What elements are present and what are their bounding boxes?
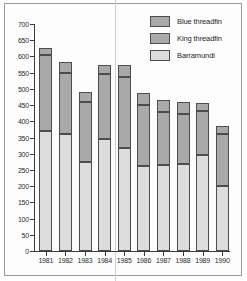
y-axis-tick-mark	[30, 121, 34, 122]
bar-segment-king-threadfin	[177, 114, 190, 164]
x-axis-tick-label: 1987	[156, 257, 171, 264]
y-axis-tick-label: 500	[18, 85, 29, 92]
legend-item: Barramundi	[150, 48, 242, 63]
y-axis-tick-mark	[30, 251, 34, 252]
legend-swatch	[150, 50, 170, 61]
y-axis-line	[34, 24, 35, 252]
y-axis-tick-mark	[30, 56, 34, 57]
x-axis-tick-mark	[85, 252, 86, 256]
y-axis-tick-mark	[30, 138, 34, 139]
y-axis-tick-label: 300	[18, 150, 29, 157]
bar-segment-barramundi	[59, 134, 72, 251]
bar-segment-king-threadfin	[196, 111, 209, 156]
y-axis-tick-label: 50	[22, 231, 29, 238]
bar-segment-blue-threadfin	[216, 126, 229, 134]
y-axis-tick-label: 700	[18, 21, 29, 28]
y-axis-tick-label: 450	[18, 102, 29, 109]
x-axis-tick-label: 1988	[176, 257, 191, 264]
bar-segment-barramundi	[98, 139, 111, 251]
x-axis-tick-label: 1989	[195, 257, 210, 264]
bar-stack	[137, 24, 150, 251]
y-axis-tick-label: 550	[18, 69, 29, 76]
bar-segment-barramundi	[137, 166, 150, 251]
bar-segment-blue-threadfin	[39, 48, 52, 54]
bar-segment-barramundi	[196, 155, 209, 251]
y-axis-tick-label: 200	[18, 183, 29, 190]
y-axis-tick-mark	[30, 105, 34, 106]
x-axis-tick-mark	[105, 252, 106, 256]
x-axis-tick-mark	[163, 252, 164, 256]
bar-segment-blue-threadfin	[177, 102, 190, 114]
y-axis-tick-label: 250	[18, 166, 29, 173]
y-axis-tick-mark	[30, 170, 34, 171]
bar-segment-king-threadfin	[59, 73, 72, 135]
bar-segment-king-threadfin	[216, 134, 229, 186]
legend-item: King threadfin	[150, 31, 242, 46]
legend-swatch	[150, 33, 170, 44]
bar-segment-king-threadfin	[39, 55, 52, 131]
legend-item: Blue threadfin	[150, 14, 242, 29]
legend-label: Blue threadfin	[177, 17, 222, 26]
bar-segment-barramundi	[177, 164, 190, 251]
x-axis-tick-mark	[65, 252, 66, 256]
bar-stack	[98, 24, 111, 251]
y-axis-tick-label: 650	[18, 37, 29, 44]
y-axis-tick-label: 0	[25, 248, 29, 255]
chart-screenshot: 0501001502002503003504004505005506006507…	[0, 0, 247, 281]
bar-segment-blue-threadfin	[79, 92, 92, 102]
bar-segment-barramundi	[79, 162, 92, 251]
bar-stack	[118, 24, 131, 251]
bar-segment-blue-threadfin	[59, 62, 72, 72]
x-axis-tick-label: 1990	[215, 257, 230, 264]
x-axis-tick-label: 1986	[136, 257, 151, 264]
bar-segment-blue-threadfin	[137, 93, 150, 106]
bar-segment-blue-threadfin	[157, 100, 170, 112]
y-axis-tick-mark	[30, 219, 34, 220]
x-axis-tick-label: 1981	[38, 257, 53, 264]
y-axis-tick-mark	[30, 235, 34, 236]
bar-segment-barramundi	[216, 186, 229, 251]
bar-segment-king-threadfin	[79, 102, 92, 161]
x-axis-tick-label: 1983	[78, 257, 93, 264]
bar-segment-king-threadfin	[137, 105, 150, 166]
x-axis-tick-mark	[124, 252, 125, 256]
y-axis-tick-label: 600	[18, 53, 29, 60]
y-axis-tick-label: 150	[18, 199, 29, 206]
bar-segment-king-threadfin	[98, 74, 111, 139]
x-axis-tick-mark	[222, 252, 223, 256]
legend-label: Barramundi	[177, 51, 215, 60]
bar-segment-blue-threadfin	[118, 65, 131, 76]
y-axis-tick-mark	[30, 186, 34, 187]
chart-legend: Blue threadfinKing threadfinBarramundi	[150, 14, 242, 65]
bar-stack	[39, 24, 52, 251]
y-axis-tick-mark	[30, 40, 34, 41]
bar-segment-barramundi	[157, 165, 170, 251]
bar-segment-king-threadfin	[157, 112, 170, 166]
y-axis-tick-mark	[30, 89, 34, 90]
x-axis-tick-label: 1985	[117, 257, 132, 264]
y-axis-tick-mark	[30, 24, 34, 25]
bar-stack	[59, 24, 72, 251]
bar-segment-king-threadfin	[118, 77, 131, 148]
y-axis-tick-label: 350	[18, 134, 29, 141]
y-axis-tick-label: 400	[18, 118, 29, 125]
x-axis-line	[34, 251, 230, 252]
y-axis-tick-mark	[30, 202, 34, 203]
bar-segment-barramundi	[118, 148, 131, 251]
x-axis-tick-label: 1984	[97, 257, 112, 264]
x-axis-tick-mark	[46, 252, 47, 256]
bar-segment-blue-threadfin	[98, 65, 111, 74]
x-axis-tick-label: 1982	[58, 257, 73, 264]
bar-segment-blue-threadfin	[196, 103, 209, 110]
legend-label: King threadfin	[177, 34, 222, 43]
x-axis-tick-mark	[144, 252, 145, 256]
x-axis-tick-mark	[203, 252, 204, 256]
y-axis-tick-label: 100	[18, 215, 29, 222]
y-axis-tick-mark	[30, 73, 34, 74]
legend-swatch	[150, 16, 170, 27]
bar-segment-barramundi	[39, 131, 52, 251]
bar-stack	[79, 24, 92, 251]
x-axis-tick-mark	[183, 252, 184, 256]
y-axis-tick-mark	[30, 154, 34, 155]
